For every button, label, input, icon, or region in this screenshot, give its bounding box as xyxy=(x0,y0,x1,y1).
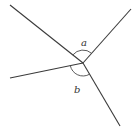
angle-label-a: a xyxy=(81,37,87,48)
ray-lower-right xyxy=(83,63,120,126)
angle-diagram: a b xyxy=(0,0,135,133)
ray-upper-right xyxy=(83,9,131,63)
ray-upper-left xyxy=(10,5,83,63)
angle-label-b: b xyxy=(74,84,80,95)
angle-arc-a xyxy=(73,50,92,55)
angle-arc-b xyxy=(70,66,89,76)
